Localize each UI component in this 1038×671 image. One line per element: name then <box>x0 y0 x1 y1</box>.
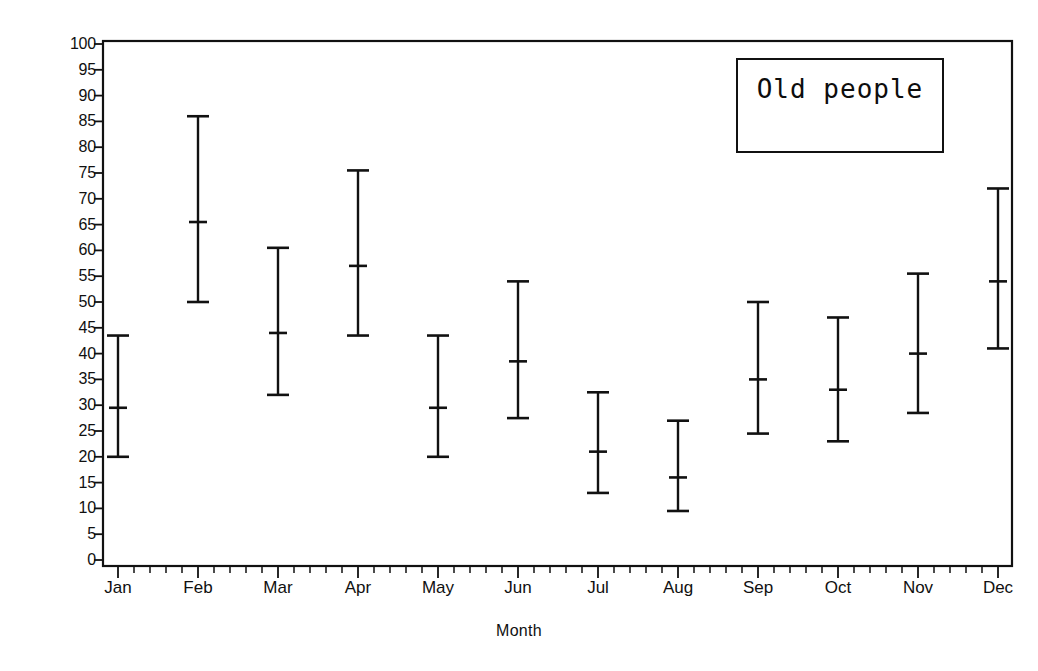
x-tick-label: Aug <box>633 578 723 598</box>
x-axis-tick-marks <box>118 566 998 578</box>
errorbar-may <box>427 336 449 457</box>
errorbar-series <box>107 116 1009 511</box>
errorbar-mar <box>267 248 289 395</box>
errorbar-oct <box>827 317 849 441</box>
x-tick-label: Dec <box>953 578 1038 598</box>
legend-label: Old people <box>738 74 942 104</box>
x-tick-label: Sep <box>713 578 803 598</box>
x-tick-label: May <box>393 578 483 598</box>
x-axis-tick-labels: JanFebMarAprMayJunJulAugSepOctNovDec <box>0 578 1038 608</box>
legend: Old people <box>736 58 944 153</box>
errorbar-sep <box>747 302 769 434</box>
errorbar-apr <box>347 170 369 335</box>
errorbar-dec <box>987 188 1009 348</box>
x-tick-label: Nov <box>873 578 963 598</box>
x-axis-title: Month <box>0 622 1038 640</box>
errorbar-jun <box>507 281 529 418</box>
x-tick-label: Apr <box>313 578 403 598</box>
x-tick-label: Mar <box>233 578 323 598</box>
x-tick-label: Jun <box>473 578 563 598</box>
x-tick-label: Jan <box>73 578 163 598</box>
errorbar-jan <box>107 336 129 457</box>
chart-figure: Crude Death Rate 05101520253035404550556… <box>0 0 1038 671</box>
errorbar-jul <box>587 392 609 493</box>
errorbar-aug <box>667 421 689 511</box>
errorbar-nov <box>907 274 929 413</box>
x-tick-label: Feb <box>153 578 243 598</box>
x-tick-label: Oct <box>793 578 883 598</box>
errorbar-feb <box>187 116 209 302</box>
x-tick-label: Jul <box>553 578 643 598</box>
y-axis-tick-marks <box>94 44 103 560</box>
